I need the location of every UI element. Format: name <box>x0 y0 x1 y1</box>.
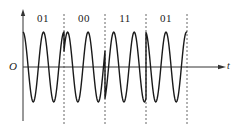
y-axis-arrow-icon <box>21 9 25 16</box>
x-axis-label-t: t <box>227 61 230 71</box>
x-axis-arrow-icon <box>218 65 226 69</box>
symbol-label-2: 00 <box>78 13 90 24</box>
symbol-label-4: 01 <box>160 13 172 24</box>
symbol-label-3: 11 <box>119 13 131 24</box>
qpsk-waveform-diagram <box>0 0 233 133</box>
axes <box>21 9 226 121</box>
symbol-label-1: 01 <box>37 13 49 24</box>
origin-label: O <box>9 61 17 72</box>
